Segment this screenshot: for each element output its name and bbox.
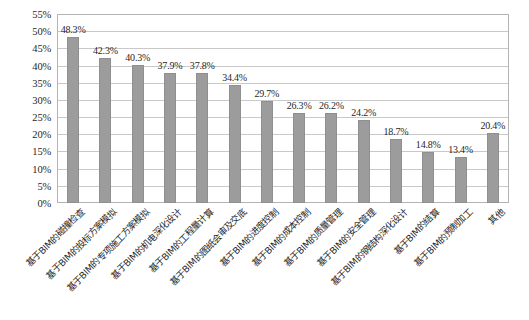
y-axis-tick-label: 40% <box>32 60 51 71</box>
y-axis-tick-label: 50% <box>32 26 51 37</box>
y-axis-tick-label: 15% <box>32 146 51 157</box>
bar-value-label: 26.2% <box>319 100 344 111</box>
bar-value-label: 37.9% <box>158 60 183 71</box>
bar-value-label: 29.7% <box>254 88 279 99</box>
bar-value-label: 26.3% <box>287 100 312 111</box>
bar-value-label: 34.4% <box>222 72 247 83</box>
bar-slot: 48.3% <box>57 14 89 203</box>
y-axis-tick-label: 30% <box>32 94 51 105</box>
x-axis-tick-text: 其他 <box>485 205 507 227</box>
y-axis-tick-label: 25% <box>32 112 51 123</box>
bar-value-label: 42.3% <box>93 45 118 56</box>
bar-value-label: 48.3% <box>61 24 86 35</box>
y-axis-tick-label: 5% <box>37 180 51 191</box>
y-axis-tick-label: 55% <box>32 9 51 20</box>
bar-chart: 0%5%10%15%20%25%30%35%40%45%50%55% 48.3%… <box>0 0 529 320</box>
bar <box>67 37 79 203</box>
bar-value-label: 37.8% <box>190 60 215 71</box>
x-axis: 基于BIM的碰撞检查基于BIM的投标方案模拟基于BIM的专项施工方案模拟基于BI… <box>57 203 509 320</box>
bar-value-label: 40.3% <box>125 52 150 63</box>
bar-value-label: 20.4% <box>480 120 505 131</box>
y-axis-tick-label: 0% <box>37 198 51 209</box>
y-axis-tick-label: 35% <box>32 77 51 88</box>
y-axis-tick-label: 20% <box>32 129 51 140</box>
bar-value-label: 18.7% <box>384 126 409 137</box>
x-axis-tick-text: 基于BIM的预制加工 <box>410 205 474 269</box>
y-axis-tick-label: 10% <box>32 163 51 174</box>
bar-value-label: 24.2% <box>351 107 376 118</box>
y-axis-tick-label: 45% <box>32 43 51 54</box>
y-axis: 0%5%10%15%20%25%30%35%40%45%50%55% <box>0 14 54 203</box>
bar-value-label: 14.8% <box>416 139 441 150</box>
